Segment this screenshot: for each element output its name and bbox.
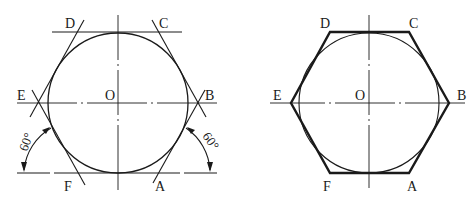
left-label-B: B	[205, 88, 214, 103]
right-label-A: A	[407, 179, 418, 194]
right-label-C: C	[409, 16, 418, 31]
left-label-A: A	[155, 179, 166, 194]
left-arc-arrowhead-bottom	[21, 162, 27, 172]
left-tangent-BA	[153, 90, 205, 183]
right-angle-label: 60°	[200, 129, 223, 153]
left-tangent-DE	[30, 20, 84, 117]
right-arc-arrowhead-bottom	[207, 162, 213, 172]
right-label-B: B	[457, 88, 466, 103]
left-label-E: E	[17, 88, 26, 103]
right-label-D: D	[320, 16, 330, 31]
right-label-O: O	[355, 88, 365, 103]
left-tangent-EF	[32, 90, 85, 185]
left-label-D: D	[65, 16, 75, 31]
hexagon-construction-diagram: D C E O B F A 60° 60° D C E O B F A	[0, 0, 476, 205]
left-figure	[17, 15, 217, 190]
right-label-F: F	[323, 179, 331, 194]
left-label-O: O	[105, 88, 115, 103]
left-angle-label: 60°	[16, 131, 36, 153]
left-label-F: F	[64, 179, 72, 194]
right-label-E: E	[273, 88, 282, 103]
right-arc-arrowhead-top	[187, 127, 195, 134]
right-figure	[270, 15, 469, 188]
regular-hexagon	[291, 32, 449, 173]
left-label-C: C	[159, 16, 168, 31]
